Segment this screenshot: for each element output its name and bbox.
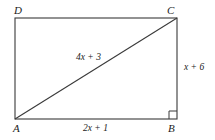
side-length-label-bc: x + 6 [184,63,204,73]
geometry-figure: D C A B 4x + 3 x + 6 2x + 1 [0,0,215,140]
diagonal-length-label: 4x + 3 [76,53,101,63]
vertex-label-b: B [168,123,175,134]
vertex-label-d: D [14,5,22,16]
figure-canvas [0,0,215,140]
vertex-label-a: A [13,123,20,134]
side-length-label-ab: 2x + 1 [83,124,108,134]
vertex-label-c: C [167,5,175,16]
